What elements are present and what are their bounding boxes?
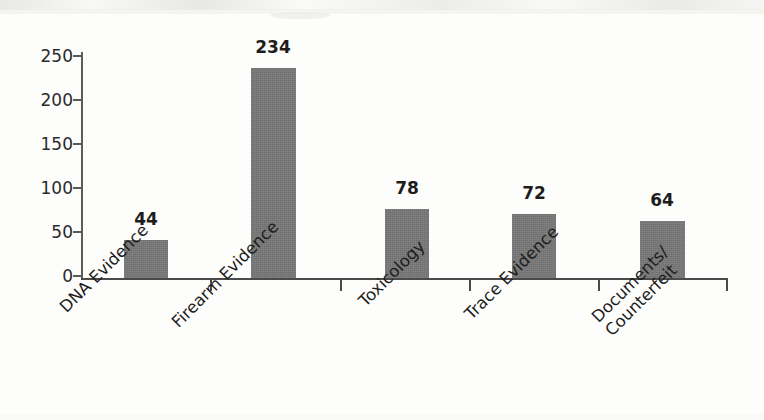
- bar-value-firearm-evidence: 234: [243, 39, 303, 56]
- y-tick-label-150-wrap: 150: [20, 136, 73, 137]
- y-tick-label-200: 200: [29, 92, 73, 109]
- bar-value-trace-evidence: 72: [504, 185, 564, 202]
- y-tick-label-0: 0: [29, 268, 73, 285]
- y-tick-label-250-wrap: 250: [20, 48, 73, 49]
- y-tick-mark-150: [73, 143, 82, 145]
- y-tick-label-50: 50: [29, 224, 73, 241]
- bar-value-dna-evidence: 44: [116, 211, 176, 228]
- y-tick-mark-250: [73, 55, 82, 57]
- y-tick-label-100-wrap: 100: [20, 180, 73, 181]
- bar-value-documents-counterfeit: 64: [632, 192, 692, 209]
- y-tick-mark-200: [73, 99, 82, 101]
- plot-area: 0 50 100 150 200 250: [0, 0, 764, 420]
- y-tick-mark-100: [73, 187, 82, 189]
- y-tick-label-150: 150: [29, 136, 73, 153]
- y-tick-label-0-wrap: 0: [20, 268, 73, 269]
- x-tick-mark-4: [598, 280, 600, 291]
- x-tick-mark-5: [726, 280, 728, 291]
- y-tick-label-200-wrap: 200: [20, 92, 73, 93]
- bar-value-toxicology: 78: [377, 180, 437, 197]
- y-tick-label-100: 100: [29, 180, 73, 197]
- y-axis-line: [81, 52, 83, 280]
- y-tick-mark-50: [73, 231, 82, 233]
- x-tick-mark-3: [469, 280, 471, 291]
- x-tick-mark-2: [340, 280, 342, 291]
- y-tick-label-250: 250: [29, 48, 73, 65]
- bar-chart: 0 50 100 150 200 250: [0, 0, 764, 420]
- y-tick-label-50-wrap: 50: [20, 224, 73, 225]
- x-category-label-documents-counterfeit: Documents/ Counterfeit: [588, 243, 686, 341]
